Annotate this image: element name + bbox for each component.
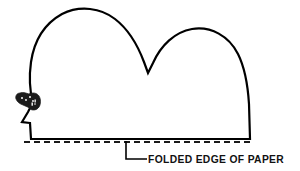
leader-line — [126, 141, 147, 159]
diagram-canvas: FOLDED EDGE OF PAPER — [0, 0, 300, 171]
fold-edge-caption: FOLDED EDGE OF PAPER — [148, 154, 284, 165]
tail-detail-icon — [16, 93, 41, 110]
folded-paper-diagram: FOLDED EDGE OF PAPER — [0, 0, 300, 171]
body-outline-path — [22, 9, 250, 139]
